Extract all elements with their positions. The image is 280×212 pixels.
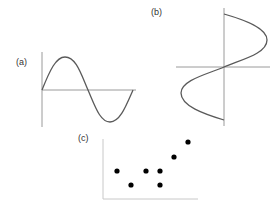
scatter-point [128, 182, 133, 187]
scatter-point [171, 154, 176, 159]
panel-c: (c) [78, 133, 198, 199]
figure-canvas: (a) (b) (c) [0, 0, 280, 212]
panel-a: (a) [16, 52, 136, 127]
scatter-point [185, 139, 190, 144]
panel-b: (b) [151, 7, 270, 126]
panel-a-label: (a) [16, 57, 27, 67]
scatter-point [143, 168, 148, 173]
panel-c-points [114, 139, 190, 187]
scatter-point [114, 168, 119, 173]
scatter-point [157, 182, 162, 187]
panel-b-label: (b) [151, 7, 162, 17]
panel-c-label: (c) [78, 133, 89, 143]
scatter-point [157, 168, 162, 173]
